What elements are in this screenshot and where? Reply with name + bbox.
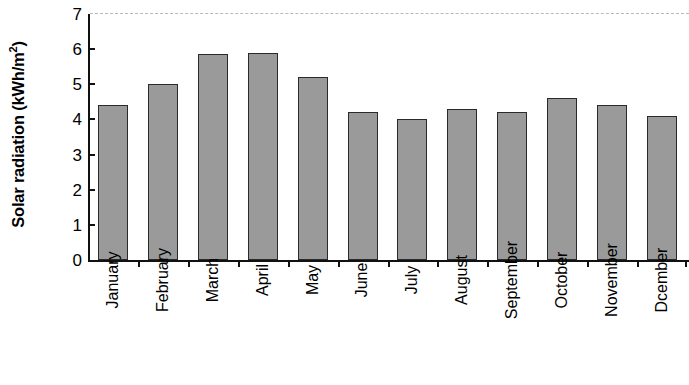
x-axis-category-label-text: September [504, 241, 520, 319]
bar [348, 112, 378, 260]
y-axis-tick-label: 7 [56, 6, 82, 23]
x-axis-category-label: January [102, 268, 124, 385]
bar [198, 54, 228, 260]
y-axis-tick-label: 1 [56, 216, 82, 233]
x-axis-category-label-text: March [205, 258, 221, 302]
x-axis-category-label-text: April [255, 264, 271, 296]
x-axis-labels: JanuaryFebruaryMarchAprilMayJuneJulyAugu… [88, 268, 687, 385]
x-axis-tick-mark [487, 260, 489, 267]
bar [98, 105, 128, 260]
x-axis-category-label: September [501, 268, 523, 385]
x-axis-category-label-text: January [105, 252, 121, 309]
x-axis-category-label-text: July [404, 266, 420, 294]
x-axis-category-label-text: June [355, 263, 371, 298]
y-axis-title-superscript: 2 [7, 46, 19, 52]
y-axis-tick-label: 2 [56, 181, 82, 198]
x-axis-category-label: June [352, 268, 374, 385]
bar [547, 98, 577, 260]
x-axis-tick-mark [338, 260, 340, 267]
bar [248, 53, 278, 260]
x-axis-category-label: Dcember [651, 268, 673, 385]
x-axis-category-label: July [401, 268, 423, 385]
bars-layer [88, 14, 687, 260]
x-axis-category-label-text: October [554, 252, 570, 309]
x-axis-category-label-text: February [155, 248, 171, 312]
bar [397, 119, 427, 260]
bar [647, 116, 677, 260]
x-axis-tick-mark [437, 260, 439, 267]
bar [148, 84, 178, 260]
x-axis-category-label-text: August [454, 255, 470, 305]
bar [597, 105, 627, 260]
bar [298, 77, 328, 260]
x-axis-category-label-text: November [604, 243, 620, 317]
x-axis-tick-mark [288, 260, 290, 267]
bar [447, 109, 477, 260]
x-axis-category-label: October [551, 268, 573, 385]
x-axis-category-label-text: Dcember [654, 248, 670, 313]
y-axis-tick-label: 4 [56, 111, 82, 128]
x-axis-tick-mark [537, 260, 539, 267]
bar [497, 112, 527, 260]
x-axis-tick-mark [238, 260, 240, 267]
x-axis-category-label: May [302, 268, 324, 385]
y-axis-tick-label: 3 [56, 146, 82, 163]
y-axis-tick-label: 6 [56, 41, 82, 58]
x-axis-tick-mark [138, 260, 140, 267]
x-axis-ticks [88, 260, 687, 268]
y-axis-tick-label: 5 [56, 76, 82, 93]
y-axis-title-text: Solar radiation (kWh/m [9, 52, 27, 227]
x-axis-category-label: February [152, 268, 174, 385]
y-axis-title-tail: ) [9, 41, 27, 46]
x-axis-category-label: November [601, 268, 623, 385]
y-axis-title: Solar radiation (kWh/m2) [0, 0, 36, 268]
x-axis-category-label: August [451, 268, 473, 385]
x-axis-tick-mark [637, 260, 639, 267]
y-axis-tick-labels: 76543210 [52, 14, 82, 260]
x-axis-category-label: March [202, 268, 224, 385]
y-axis-tick-label: 0 [56, 252, 82, 269]
x-axis-category-label: April [252, 268, 274, 385]
x-axis-tick-mark [188, 260, 190, 267]
x-axis-category-label-text: May [305, 265, 321, 295]
x-axis-tick-mark [685, 260, 687, 267]
x-axis-tick-mark [587, 260, 589, 267]
x-axis-tick-mark [388, 260, 390, 267]
